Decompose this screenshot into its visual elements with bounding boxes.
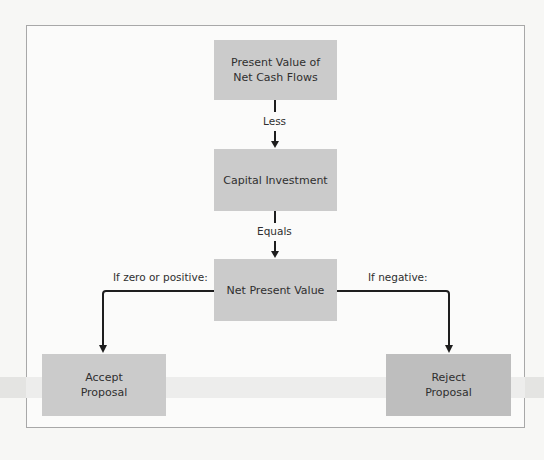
arrow-accept xyxy=(99,291,214,353)
edge-label-negative: If negative: xyxy=(368,271,428,283)
node-present-value: Present Value of Net Cash Flows xyxy=(214,40,337,100)
edge-label-equals: Equals xyxy=(257,225,292,237)
node-accept-proposal: Accept Proposal xyxy=(42,354,166,416)
node-capital-investment: Capital Investment xyxy=(214,149,337,211)
arrow-reject xyxy=(337,291,453,353)
edge-label-zero-or-positive: If zero or positive: xyxy=(113,271,208,283)
node-reject-proposal: Reject Proposal xyxy=(386,354,511,416)
edge-label-less: Less xyxy=(263,115,286,127)
node-net-present-value: Net Present Value xyxy=(214,259,337,321)
